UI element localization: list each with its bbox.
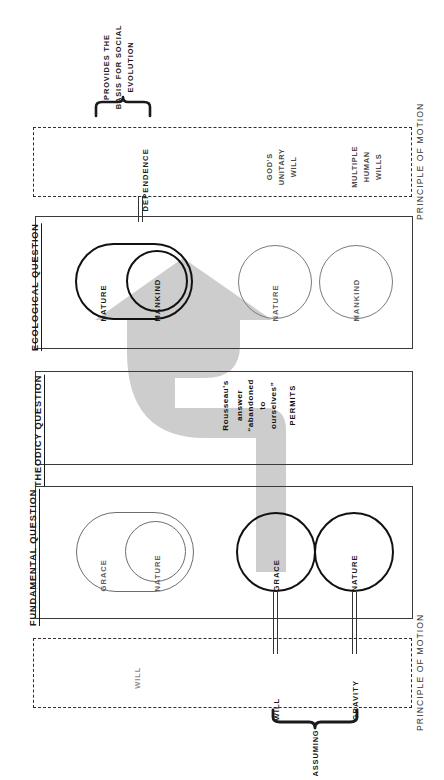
top-note-line-2: BASIS FOR SOCIAL — [114, 24, 124, 110]
top-note-line-1: PROVIDES THE — [102, 24, 112, 110]
pom-top-human-wills-line-2: HUMAN — [362, 124, 371, 210]
panel-label-fundamental-question: FUNDAMENTAL QUESTION — [28, 476, 38, 626]
shape-label-eco-mankind: MANKIND — [153, 242, 162, 322]
top-note-line-3: EVOLUTION — [126, 24, 136, 110]
diagram-canvas: Rousseau's answer “abandoned to ourselve… — [0, 0, 444, 780]
pom-top-gods-will-line-3: WILL — [289, 124, 298, 210]
shape-label-eco-nature: NATURE — [99, 242, 108, 322]
panel-theodicy-question — [35, 371, 413, 465]
panel-label-theodicy-question: THEODICY QUESTION — [33, 347, 43, 487]
brace-bottom-label: ASSUMING — [311, 713, 321, 780]
shape-label-fund-nature-inner: NATURE — [153, 512, 162, 592]
pom-top-human-wills-line-1: MULTIPLE — [350, 124, 359, 210]
pom-top-human-wills-line-3: WILLS — [374, 124, 383, 210]
shape-label-eco-right-mankind: MANKIND — [352, 242, 361, 322]
principle-of-motion-label-bottom: PRINCIPLE OF MOTION — [415, 611, 425, 731]
pom-bottom-will-faint-label: WILL — [133, 635, 142, 721]
principle-of-motion-label-top: PRINCIPLE OF MOTION — [415, 100, 425, 220]
shape-label-fund-grace: GRACE — [272, 512, 281, 592]
shape-label-fund-nature: NATURE — [350, 512, 359, 592]
shape-label-fund-grace-outer: GRACE — [99, 512, 108, 592]
pom-top-gods-will-line-2: UNITARY — [277, 124, 286, 210]
shape-label-eco-right-nature: NATURE — [271, 242, 280, 322]
panel-label-ecological-question: ECOLOGICAL QUESTION — [30, 211, 40, 351]
pom-top-gods-will-line-1: GOD'S — [265, 124, 274, 210]
